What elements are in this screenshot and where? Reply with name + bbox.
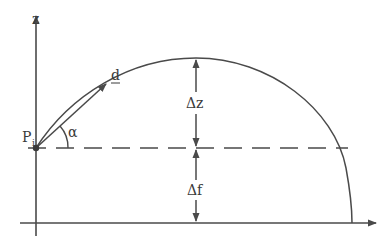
z-axis-label: z: [32, 11, 39, 27]
trajectory-curve: [36, 58, 352, 223]
delta-z-label: Δz: [186, 95, 204, 111]
vector-d-label: d: [111, 67, 120, 83]
trajectory-diagram: z d α P i Δz Δf: [0, 0, 390, 246]
angle-arc: [60, 126, 68, 148]
angle-alpha-label: α: [68, 124, 78, 140]
delta-f-label: Δf: [187, 182, 204, 198]
point-p-label: P: [22, 129, 31, 145]
point-subscript-label: i: [32, 138, 35, 148]
